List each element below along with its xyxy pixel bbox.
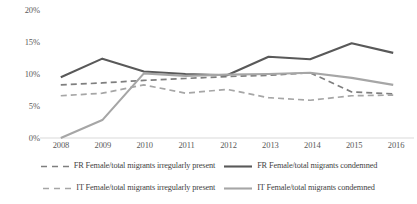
x-tick-label-2013: 2013 bbox=[249, 138, 291, 154]
series-layer bbox=[61, 43, 393, 138]
x-tick-label-2015: 2015 bbox=[333, 138, 375, 154]
x-axis: 2008 2009 2010 2011 2012 2013 2014 2015 … bbox=[40, 138, 417, 154]
legend-entry-it-irregular[interactable]: IT Female/total migrants irregularly pre… bbox=[42, 183, 215, 193]
y-axis: 20% 15% 10% 5% 0% bbox=[0, 0, 40, 146]
y-tick-label-10: 10% bbox=[2, 69, 40, 79]
x-tick-label-2008: 2008 bbox=[40, 138, 82, 154]
legend-label-fr-irregular: FR Female/total migrants irregularly pre… bbox=[74, 161, 215, 171]
y-tick-label-0: 0% bbox=[2, 133, 40, 143]
x-tick-label-2010: 2010 bbox=[124, 138, 166, 154]
series-line-it_condemned bbox=[61, 73, 393, 138]
x-tick-label-2012: 2012 bbox=[208, 138, 250, 154]
x-tick-label-2016: 2016 bbox=[375, 138, 417, 154]
legend-swatch-solid-icon bbox=[223, 184, 253, 193]
legend-swatch-dashed-icon bbox=[42, 184, 72, 193]
y-tick-label-15: 15% bbox=[2, 37, 40, 47]
legend-entry-fr-irregular[interactable]: FR Female/total migrants irregularly pre… bbox=[40, 161, 215, 171]
line-chart: 20% 15% 10% 5% 0% 2008 2009 2010 2011 20… bbox=[0, 0, 417, 204]
legend-swatch-solid-icon bbox=[223, 162, 253, 171]
x-tick-label-2011: 2011 bbox=[166, 138, 208, 154]
legend-row-fr: FR Female/total migrants irregularly pre… bbox=[0, 155, 417, 177]
legend-label-it-condemned: IT Female/total migrants condemned bbox=[257, 183, 375, 193]
legend-entry-fr-condemned[interactable]: FR Female/total migrants condemned bbox=[223, 161, 377, 171]
y-tick-label-20: 20% bbox=[2, 5, 40, 15]
x-tick-label-2009: 2009 bbox=[82, 138, 124, 154]
chart-legend: FR Female/total migrants irregularly pre… bbox=[0, 155, 417, 204]
legend-row-it: IT Female/total migrants irregularly pre… bbox=[0, 177, 417, 199]
legend-label-fr-condemned: FR Female/total migrants condemned bbox=[257, 161, 377, 171]
legend-label-it-irregular: IT Female/total migrants irregularly pre… bbox=[76, 183, 215, 193]
x-tick-label-2014: 2014 bbox=[291, 138, 333, 154]
legend-entry-it-condemned[interactable]: IT Female/total migrants condemned bbox=[223, 183, 375, 193]
plot-area bbox=[0, 0, 417, 146]
series-line-fr_condemned bbox=[61, 43, 393, 77]
plot-svg bbox=[0, 0, 417, 146]
y-tick-label-5: 5% bbox=[2, 101, 40, 111]
legend-swatch-dashed-icon bbox=[40, 162, 70, 171]
